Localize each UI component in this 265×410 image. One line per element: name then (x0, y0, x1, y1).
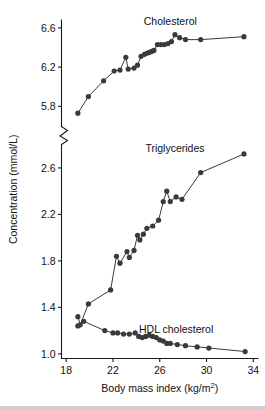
data-point-marker (75, 111, 80, 116)
lipid-vs-bmi-chart: 5.86.26.61.01.41.82.22.61822263034Concen… (0, 0, 265, 410)
data-point-marker (123, 55, 128, 60)
data-point-marker (75, 314, 80, 319)
axes-group: 5.86.26.61.01.41.82.22.61822263034Concen… (7, 20, 259, 394)
y-tick-label-upper: 5.8 (41, 100, 56, 112)
data-point-marker (75, 323, 80, 328)
series-triglycerides (75, 151, 246, 327)
footer-divider (0, 406, 265, 410)
data-point-marker (81, 319, 86, 324)
series-cholesterol (75, 32, 246, 116)
data-point-marker (86, 301, 91, 306)
series-group (75, 32, 247, 354)
data-point-marker (121, 332, 126, 337)
data-point-marker (127, 255, 132, 260)
data-point-marker (179, 197, 184, 202)
data-point-marker (172, 32, 177, 37)
x-axis-title-base: Body mass index (kg/m (101, 382, 210, 394)
x-tick-label: 34 (247, 364, 259, 376)
data-point-marker (174, 194, 179, 199)
data-point-marker (110, 330, 115, 335)
y-tick-label-lower: 1.4 (41, 301, 56, 313)
data-point-marker (135, 233, 140, 238)
data-point-marker (183, 343, 188, 348)
data-point-marker (241, 151, 246, 156)
x-tick-label: 26 (154, 364, 166, 376)
data-point-marker (144, 226, 149, 231)
y-tick-label-lower: 2.6 (41, 162, 56, 174)
data-point-marker (206, 345, 211, 350)
data-point-marker (198, 170, 203, 175)
data-point-marker (161, 199, 166, 204)
data-point-marker (126, 66, 131, 71)
data-point-marker (169, 39, 174, 44)
data-point-marker (117, 261, 122, 266)
data-point-marker (135, 63, 140, 68)
data-point-marker (198, 37, 203, 42)
x-tick-label: 18 (60, 364, 72, 376)
y-tick-label-lower: 2.2 (41, 208, 56, 220)
data-point-marker (127, 332, 132, 337)
y-axis-title: Concentration (mmol/L) (7, 134, 19, 244)
data-point-marker (86, 94, 91, 99)
x-tick-label: 22 (107, 364, 119, 376)
data-point-marker (124, 249, 129, 254)
series-label-hdl-cholesterol: HDL cholesterol (139, 323, 213, 335)
data-point-marker (175, 342, 180, 347)
data-point-marker (183, 37, 188, 42)
x-axis-title: Body mass index (kg/m2) (101, 380, 218, 394)
x-axis-title-tail: ) (215, 382, 219, 394)
data-point-marker (137, 237, 142, 242)
series-label-cholesterol: Cholesterol (144, 15, 197, 27)
data-point-marker (243, 349, 248, 354)
data-point-marker (112, 68, 117, 73)
data-point-marker (151, 48, 156, 53)
series-polyline (78, 154, 244, 325)
y-tick-label-upper: 6.2 (41, 61, 56, 73)
y-tick-label-lower: 1.0 (41, 348, 56, 360)
data-point-marker (177, 35, 182, 40)
y-tick-label-lower: 1.8 (41, 255, 56, 267)
data-point-marker (168, 199, 173, 204)
data-point-marker (102, 328, 107, 333)
chart-figure: 5.86.26.61.01.41.82.22.61822263034Concen… (0, 0, 265, 410)
y-tick-label-upper: 6.6 (41, 22, 56, 34)
data-point-marker (117, 67, 122, 72)
data-point-marker (114, 254, 119, 259)
data-point-marker (164, 189, 169, 194)
y-axis-break-marker (60, 127, 68, 145)
data-point-marker (195, 344, 200, 349)
data-point-marker (241, 34, 246, 39)
data-point-marker (150, 223, 155, 228)
x-tick-label: 30 (201, 364, 213, 376)
data-point-marker (108, 287, 113, 292)
data-point-marker (101, 78, 106, 83)
data-point-marker (115, 330, 120, 335)
data-point-marker (168, 341, 173, 346)
annotations-group: CholesterolTriglyceridesHDL cholesterol (139, 15, 213, 335)
data-point-marker (131, 248, 136, 253)
data-point-marker (141, 232, 146, 237)
data-point-marker (156, 218, 161, 223)
series-label-triglycerides: Triglycerides (145, 142, 204, 154)
